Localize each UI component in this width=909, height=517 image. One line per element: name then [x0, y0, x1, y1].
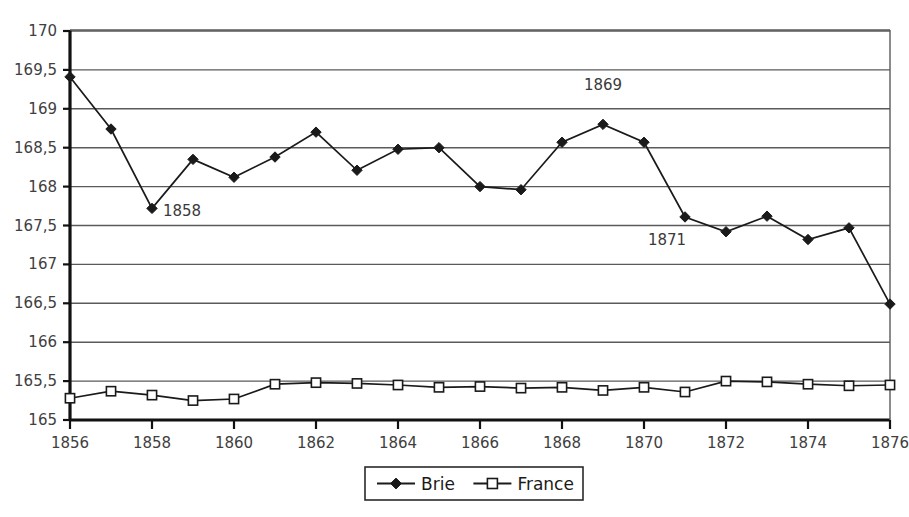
data-point-france-1856	[65, 394, 74, 403]
data-point-france-1864	[393, 380, 402, 389]
line-chart: 165165,5166166,5167167,5168168,5169169,5…	[0, 0, 909, 517]
x-axis-tick-label: 1866	[461, 434, 499, 452]
y-axis-tick-label: 168	[28, 178, 57, 196]
x-axis-tick-label: 1874	[789, 434, 827, 452]
data-point-france-1862	[311, 378, 320, 387]
data-point-france-1872	[721, 377, 730, 386]
annotation-1869: 1869	[584, 76, 622, 94]
x-axis-tick-label: 1862	[297, 434, 335, 452]
y-axis-tick-label: 169	[28, 100, 57, 118]
data-point-france-1857	[106, 387, 115, 396]
data-point-france-1866	[475, 382, 484, 391]
chart-container: 165165,5166166,5167167,5168168,5169169,5…	[0, 0, 909, 517]
legend-label-france: France	[517, 474, 574, 494]
annotation-1871: 1871	[648, 231, 686, 249]
y-axis-tick-label: 165	[28, 411, 57, 429]
legend-label-brie: Brie	[421, 474, 455, 494]
x-axis-tick-label: 1860	[215, 434, 253, 452]
annotation-1858: 1858	[163, 202, 201, 220]
data-point-france-1870	[639, 383, 648, 392]
y-axis-tick-label: 166	[28, 333, 57, 351]
x-axis-tick-label: 1856	[51, 434, 89, 452]
y-axis-tick-label: 168,5	[14, 139, 57, 157]
data-point-france-1868	[557, 383, 566, 392]
data-point-france-1874	[803, 380, 812, 389]
data-point-france-1865	[434, 383, 443, 392]
legend-marker-france	[487, 479, 497, 489]
x-axis-tick-label: 1864	[379, 434, 417, 452]
data-point-france-1861	[270, 380, 279, 389]
data-point-france-1869	[598, 386, 607, 395]
y-axis-tick-label: 169,5	[14, 61, 57, 79]
x-axis-tick-label: 1858	[133, 434, 171, 452]
data-point-france-1873	[762, 377, 771, 386]
y-axis-tick-label: 165,5	[14, 372, 57, 390]
data-point-france-1876	[885, 380, 894, 389]
x-axis-tick-label: 1876	[871, 434, 909, 452]
data-point-france-1860	[229, 394, 238, 403]
y-axis-tick-label: 167	[28, 255, 57, 273]
x-axis-tick-label: 1872	[707, 434, 745, 452]
data-point-france-1871	[680, 387, 689, 396]
data-point-france-1875	[844, 381, 853, 390]
y-axis-tick-label: 167,5	[14, 217, 57, 235]
data-point-france-1863	[352, 379, 361, 388]
data-point-france-1859	[188, 396, 197, 405]
y-axis-tick-label: 166,5	[14, 294, 57, 312]
data-point-france-1858	[147, 391, 156, 400]
data-point-france-1867	[516, 384, 525, 393]
y-axis-tick-label: 170	[28, 22, 57, 40]
x-axis-tick-label: 1870	[625, 434, 663, 452]
x-axis-tick-label: 1868	[543, 434, 581, 452]
